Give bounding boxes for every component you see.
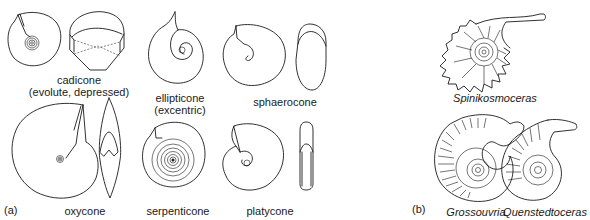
serpenticone-name: serpenticone [133, 205, 223, 217]
panel-b-label: (b) [412, 203, 425, 215]
oxycone-name: oxycone [40, 205, 130, 217]
oxycone-label: oxycone [40, 205, 130, 217]
ellipticone-name: ellipticone [140, 92, 220, 104]
ellipticone-description: (excentric) [140, 104, 220, 116]
serpenticone-label: serpenticone [133, 205, 223, 217]
cadicone-frontal-drawing [70, 12, 124, 70]
sphaerocone-frontal-drawing [296, 24, 326, 90]
platycone-label: platycone [230, 205, 310, 217]
platycone-lateral-drawing [223, 124, 284, 190]
cadicone-description: (evolute, depressed) [14, 86, 144, 98]
sphaerocone-label: sphaerocone [240, 96, 330, 108]
platycone-name: platycone [230, 205, 310, 217]
platycone-frontal-drawing [300, 122, 313, 190]
quenstedtoceras-drawing [502, 119, 577, 200]
oxycone-frontal-drawing [99, 98, 120, 198]
cadicone-name: cadicone [14, 74, 144, 86]
grossouvria-drawing [435, 115, 524, 202]
quenstedtoceras-name: Quenstedtoceras [500, 206, 590, 218]
panel-a-label: (a) [4, 204, 17, 216]
quenstedtoceras-label: Quenstedtoceras [500, 206, 590, 218]
spinikosmoceras-label: Spinikosmoceras [440, 92, 550, 104]
sphaerocone-lateral-drawing [223, 25, 285, 86]
sphaerocone-name: sphaerocone [240, 96, 330, 108]
cadicone-lateral-drawing [8, 12, 61, 65]
serpenticone-drawing [143, 122, 206, 187]
ellipticone-label: ellipticone (excentric) [140, 92, 220, 116]
ellipticone-drawing [149, 12, 204, 83]
cadicone-label: cadicone (evolute, depressed) [14, 74, 144, 98]
spinikosmoceras-name: Spinikosmoceras [440, 92, 550, 104]
oxycone-lateral-drawing [12, 103, 98, 198]
spinikosmoceras-drawing [440, 14, 546, 92]
